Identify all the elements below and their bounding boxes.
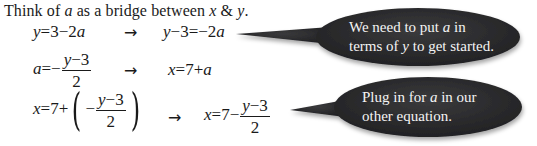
var: a [77,22,86,41]
text: terms of [349,38,402,54]
expr: =7− [212,105,240,124]
denominator: 2 [107,111,116,130]
expr: =3−2 [41,22,77,41]
arrow-icon: → [124,23,137,42]
equation-row-3-left: x=7+(−y−32) [33,88,144,132]
numerator: y−3 [96,91,126,111]
equation-row-2-right: x=7+a [168,60,212,80]
numerator: y−3 [62,51,92,71]
fraction: y−32 [240,97,270,136]
text: to get started. [409,38,494,54]
var: a [33,59,42,78]
open-paren: ( [72,88,81,132]
expr: −3=−2 [171,22,217,41]
expr: −3 [250,96,268,115]
var: x [33,99,41,118]
equation-row-1-right: y−3=−2a [163,22,225,42]
numerator: y−3 [240,97,270,117]
text: other equation. [362,108,452,124]
var: y [163,22,171,41]
bubble-2-line-2: other equation. [362,107,477,126]
arrow-icon: → [124,61,137,80]
fraction: y−32 [96,91,126,130]
expr: =7+ [176,60,204,79]
close-paren: ) [131,88,140,132]
expr: =7+ [41,99,69,118]
equation-row-1-left: y=3−2a [33,22,85,42]
text: Plug in for [362,89,430,105]
equation-row-3-right: x=7−y−32 [204,97,271,136]
denominator: 2 [251,117,260,136]
var: x [168,60,176,79]
bubble-2-line-1: Plug in for a in our [362,88,477,107]
text: in [450,19,465,35]
text: in our [437,89,476,105]
bubble-1-text: We need to put a in terms of y to get st… [349,18,494,56]
bubble-1-line-1: We need to put a in [349,18,494,37]
var: x [204,105,212,124]
arrow-icon: → [168,108,181,127]
text: We need to put [349,19,443,35]
equation-row-2-left: a=−y−32 [33,51,92,90]
expr: − [85,99,95,118]
var: y [402,38,409,54]
var: y [33,22,41,41]
var: a [203,60,212,79]
var: y [98,90,106,109]
expr: −3 [106,90,124,109]
bubble-2-text: Plug in for a in our other equation. [362,88,477,126]
expr: −3 [71,50,89,69]
var: y [242,96,250,115]
var: a [216,22,225,41]
expr: =− [42,59,61,78]
bubble-1-line-2: terms of y to get started. [349,37,494,56]
